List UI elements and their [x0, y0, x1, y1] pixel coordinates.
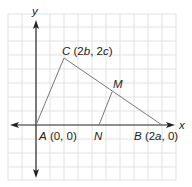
grid — [8, 14, 176, 180]
point-b-label: B (2a, 0) — [134, 130, 178, 142]
point-m-label: M — [113, 78, 123, 90]
triangle-abc — [36, 58, 162, 125]
y-axis — [33, 20, 39, 178]
coordinate-diagram: y x C (2b, 2c) M A (0, 0) N B (2a, 0) — [0, 0, 192, 187]
x-axis-label: x — [178, 119, 186, 131]
point-n-label: N — [94, 130, 103, 142]
y-axis-label: y — [31, 5, 39, 17]
point-c-label: C (2b, 2c) — [62, 45, 113, 57]
segment-cb — [64, 58, 162, 125]
point-a-label: A (0, 0) — [38, 130, 77, 142]
